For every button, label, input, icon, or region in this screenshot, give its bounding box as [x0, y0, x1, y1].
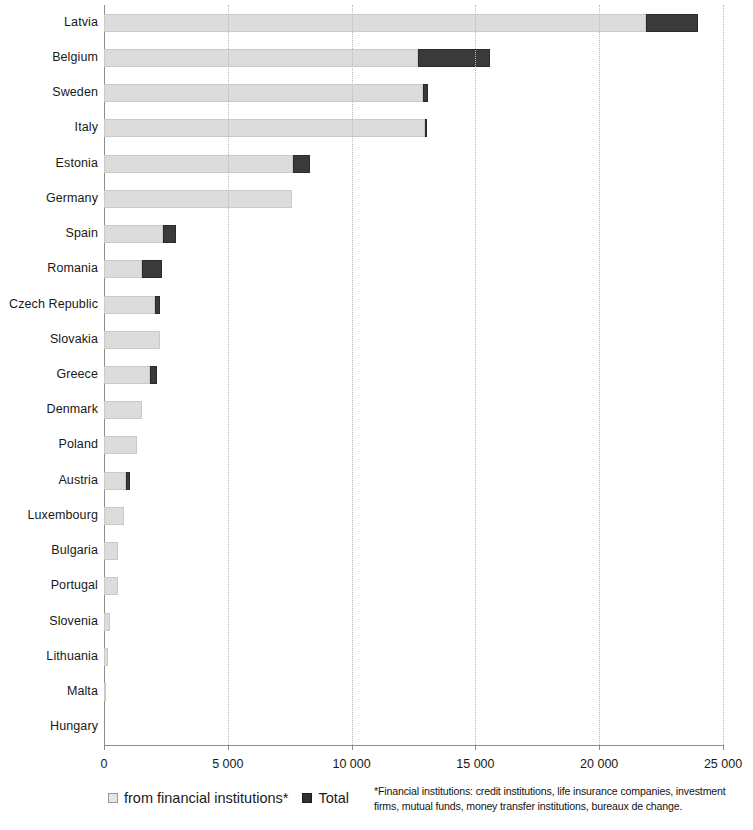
bar-segment-total	[155, 296, 160, 314]
category-label-spain: Spain	[3, 226, 98, 240]
bar-romania	[104, 260, 162, 278]
bar-austria	[104, 472, 130, 490]
bar-italy	[104, 119, 426, 137]
bar-segment-total	[425, 119, 427, 137]
bar-segment-from-financial-institutions	[104, 331, 160, 349]
bar-segment-from-financial-institutions	[104, 296, 155, 314]
gridline	[352, 5, 353, 745]
bar-segment-from-financial-institutions	[104, 190, 292, 208]
x-axis-tick	[599, 745, 600, 750]
chart-legend: from financial institutions* Total	[108, 790, 349, 806]
category-label-portugal: Portugal	[3, 578, 98, 592]
bar-segment-from-financial-institutions	[104, 472, 126, 490]
x-axis-tick	[475, 745, 476, 750]
bar-segment-from-financial-institutions	[104, 683, 106, 701]
category-label-slovenia: Slovenia	[3, 614, 98, 628]
bar-segment-from-financial-institutions	[104, 507, 124, 525]
bar-czech-republic	[104, 296, 160, 314]
category-label-lithuania: Lithuania	[3, 649, 98, 663]
bar-segment-total	[150, 366, 157, 384]
x-axis-tick-label: 20 000	[580, 757, 618, 771]
category-label-czech-republic: Czech Republic	[3, 297, 98, 311]
bar-greece	[104, 366, 157, 384]
bar-spain	[104, 225, 176, 243]
category-label-germany: Germany	[3, 191, 98, 205]
legend-item-from-financial-institutions: from financial institutions*	[108, 790, 288, 806]
x-axis-tick-label: 5 000	[212, 757, 243, 771]
bar-luxembourg	[104, 507, 124, 525]
bar-belgium	[104, 49, 490, 67]
chart-footnote: *Financial institutions: credit institut…	[374, 784, 746, 813]
gridline	[723, 5, 724, 745]
gridline	[475, 5, 476, 745]
legend-label-from-financial-institutions: from financial institutions*	[124, 790, 288, 806]
category-label-sweden: Sweden	[3, 85, 98, 99]
legend-swatch-dark-icon	[302, 793, 312, 803]
category-label-greece: Greece	[3, 367, 98, 381]
bar-germany	[104, 190, 292, 208]
category-label-romania: Romania	[3, 261, 98, 275]
bar-segment-from-financial-institutions	[104, 401, 142, 419]
bar-sweden	[104, 84, 428, 102]
category-label-hungary: Hungary	[3, 719, 98, 733]
bar-segment-from-financial-institutions	[104, 542, 118, 560]
bar-segment-total	[142, 260, 162, 278]
bar-segment-total	[163, 225, 175, 243]
bar-segment-from-financial-institutions	[104, 119, 425, 137]
category-label-slovakia: Slovakia	[3, 332, 98, 346]
category-label-italy: Italy	[3, 120, 98, 134]
category-label-poland: Poland	[3, 437, 98, 451]
category-label-denmark: Denmark	[3, 402, 98, 416]
bar-denmark	[104, 401, 142, 419]
x-axis-tick-label: 15 000	[456, 757, 494, 771]
bar-segment-total	[418, 49, 490, 67]
bar-latvia	[104, 14, 698, 32]
bar-segment-from-financial-institutions	[104, 155, 293, 173]
category-label-estonia: Estonia	[3, 156, 98, 170]
bar-segment-total	[293, 155, 309, 173]
x-axis-tick	[104, 745, 105, 750]
x-axis-tick	[723, 745, 724, 750]
bar-estonia	[104, 155, 310, 173]
bar-segment-from-financial-institutions	[104, 225, 163, 243]
category-label-luxembourg: Luxembourg	[3, 508, 98, 522]
category-label-malta: Malta	[3, 684, 98, 698]
bar-segment-from-financial-institutions	[104, 613, 110, 631]
bar-bulgaria	[104, 542, 118, 560]
x-axis-tick	[352, 745, 353, 750]
category-label-latvia: Latvia	[3, 15, 98, 29]
bar-segment-from-financial-institutions	[104, 648, 108, 666]
x-axis-tick-label: 0	[101, 757, 108, 771]
x-axis-tick-label: 25 000	[704, 757, 742, 771]
bar-segment-total	[126, 472, 130, 490]
bar-segment-from-financial-institutions	[104, 366, 150, 384]
bar-segment-from-financial-institutions	[104, 49, 418, 67]
legend-label-total: Total	[318, 790, 349, 806]
x-axis-tick	[228, 745, 229, 750]
gridline	[228, 5, 229, 745]
bar-lithuania	[104, 648, 108, 666]
category-label-bulgaria: Bulgaria	[3, 543, 98, 557]
x-axis-tick-label: 10 000	[332, 757, 370, 771]
bar-segment-from-financial-institutions	[104, 577, 118, 595]
bar-segment-from-financial-institutions	[104, 260, 142, 278]
x-axis-line	[104, 745, 724, 746]
bar-segment-total	[646, 14, 698, 32]
gridline	[599, 5, 600, 745]
bar-segment-total	[423, 84, 428, 102]
bar-chart: LatviaBelgiumSwedenItalyEstoniaGermanySp…	[0, 0, 753, 830]
bar-portugal	[104, 577, 118, 595]
category-label-belgium: Belgium	[3, 50, 98, 64]
bar-segment-from-financial-institutions	[104, 14, 646, 32]
bar-segment-from-financial-institutions	[104, 84, 423, 102]
bar-poland	[104, 436, 137, 454]
legend-swatch-light-icon	[108, 793, 118, 803]
bar-slovakia	[104, 331, 160, 349]
legend-item-total: Total	[302, 790, 349, 806]
category-label-austria: Austria	[3, 473, 98, 487]
bar-malta	[104, 683, 105, 701]
bar-slovenia	[104, 613, 110, 631]
bar-segment-from-financial-institutions	[104, 436, 137, 454]
plot-area: LatviaBelgiumSwedenItalyEstoniaGermanySp…	[104, 5, 723, 745]
